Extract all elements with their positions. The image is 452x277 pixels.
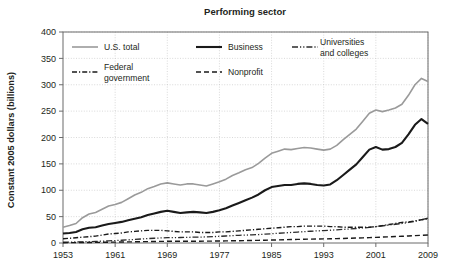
x-tick-label: 1977: [209, 250, 229, 260]
x-tick-label: 2009: [418, 250, 438, 260]
legend-label: Nonprofit: [228, 67, 263, 77]
x-tick-label: 1953: [53, 250, 73, 260]
y-tick-label: 350: [41, 54, 56, 64]
y-tick-label: 400: [41, 27, 56, 37]
x-tick-label: 2001: [366, 250, 386, 260]
series-line: [63, 78, 428, 227]
y-tick-label: 50: [46, 212, 56, 222]
legend-label: Business: [228, 42, 263, 52]
y-tick-label: 100: [41, 185, 56, 195]
legend-label: and colleges: [320, 48, 368, 58]
data-series-group: [63, 78, 428, 242]
chart-legend: U.S. totalBusinessUniversitiesand colleg…: [72, 37, 368, 83]
chart-title: Performing sector: [204, 6, 286, 17]
y-axis-ticks: 050100150200250300350400: [41, 27, 63, 248]
legend-label: Federal: [104, 62, 133, 72]
y-tick-label: 0: [51, 238, 56, 248]
performing-sector-line-chart: Performing sector Constant 2005 dollars …: [0, 0, 452, 277]
legend-label: U.S. total: [104, 42, 139, 52]
x-tick-label: 1969: [157, 250, 177, 260]
x-tick-label: 1993: [314, 250, 334, 260]
y-tick-label: 200: [41, 133, 56, 143]
x-tick-label: 1985: [262, 250, 282, 260]
y-tick-label: 300: [41, 80, 56, 90]
legend-label: Universities: [320, 37, 364, 47]
y-axis-label: Constant 2005 dollars (billions): [6, 72, 16, 208]
x-tick-label: 1961: [105, 250, 125, 260]
y-tick-label: 250: [41, 106, 56, 116]
x-axis-ticks: 19531961196919771985199320012009: [53, 243, 438, 260]
chart-container: Performing sector Constant 2005 dollars …: [0, 0, 452, 277]
series-line: [63, 235, 428, 243]
legend-label: government: [104, 73, 150, 83]
y-tick-label: 150: [41, 159, 56, 169]
